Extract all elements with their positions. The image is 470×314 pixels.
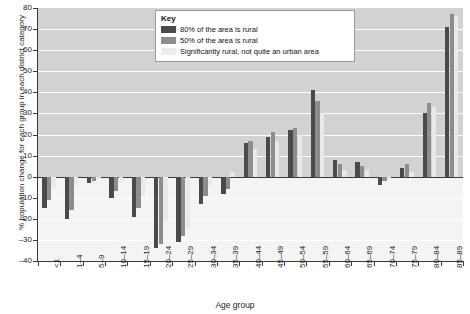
legend-item: Significantly rural, not quite an urban … xyxy=(161,46,349,57)
x-axis-tick-label: 25–29 xyxy=(186,246,195,268)
y-axis-tick xyxy=(33,8,37,9)
x-axis-tick-label: 70–74 xyxy=(388,246,397,268)
bar xyxy=(119,177,123,183)
bar xyxy=(51,177,55,188)
x-axis-tick-label: 20–24 xyxy=(164,246,173,268)
bar-chart-figure: % population change for each group in ea… xyxy=(0,0,470,314)
y-axis-tick xyxy=(33,198,37,199)
y-axis-tick-label: 60 xyxy=(4,45,32,54)
y-axis-tick xyxy=(33,113,37,114)
y-axis-tick-label: 10 xyxy=(4,151,32,160)
y-axis-tick xyxy=(33,156,37,157)
y-axis-tick-label: –40 xyxy=(4,256,32,265)
bar xyxy=(409,172,413,176)
light-gray-swatch xyxy=(161,48,176,55)
bar xyxy=(186,177,190,230)
gridline xyxy=(38,113,463,114)
bar xyxy=(141,177,145,196)
gridline xyxy=(38,219,463,220)
y-axis-tick-label: 0 xyxy=(4,172,32,181)
gridline xyxy=(38,198,463,199)
y-axis-tick-label: 40 xyxy=(4,87,32,96)
bar xyxy=(365,170,369,176)
bar xyxy=(230,172,234,176)
x-axis-tick-label: 60–64 xyxy=(343,246,352,268)
bar xyxy=(387,177,391,179)
x-axis-tick-label: 45–49 xyxy=(276,246,285,268)
legend-item-label: 80% of the area is rural xyxy=(180,25,258,34)
legend-item: 50% of the area is rural xyxy=(161,35,349,46)
x-axis-tick-label: 75–79 xyxy=(410,246,419,268)
bar xyxy=(275,141,279,177)
x-axis-tick-label: 65–69 xyxy=(365,246,374,268)
bar xyxy=(226,177,230,190)
y-axis-tick xyxy=(33,92,37,93)
y-axis-tick xyxy=(33,219,37,220)
legend: Key 80% of the area is rural50% of the a… xyxy=(155,10,355,62)
x-axis-tick-label: 1–4 xyxy=(75,255,84,268)
x-axis-tick-label: 85–89 xyxy=(455,246,464,268)
gridline xyxy=(38,240,463,241)
bar xyxy=(208,177,212,185)
x-axis-tick-label: 30–34 xyxy=(209,246,218,268)
y-axis-spine xyxy=(37,8,38,262)
x-axis-tick-label: <1 xyxy=(52,259,61,268)
y-axis-tick-label: –10 xyxy=(4,193,32,202)
x-axis-tick-label: 35–39 xyxy=(231,246,240,268)
bar xyxy=(96,177,100,179)
y-axis-tick-label: 30 xyxy=(4,108,32,117)
gridline xyxy=(38,135,463,136)
x-axis-tick-label: 5–9 xyxy=(97,255,106,268)
legend-item-label: Significantly rural, not quite an urban … xyxy=(180,47,319,56)
y-axis-tick xyxy=(33,71,37,72)
y-axis-tick xyxy=(33,29,37,30)
gridline xyxy=(38,92,463,93)
mid-gray-swatch xyxy=(161,37,176,44)
dark-gray-swatch xyxy=(161,26,176,33)
y-axis-tick xyxy=(33,240,37,241)
gridline xyxy=(38,71,463,72)
x-axis-tick-label: 15–19 xyxy=(142,246,151,268)
x-axis-tick xyxy=(38,262,39,266)
y-axis-tick xyxy=(33,135,37,136)
y-axis-tick-label: –30 xyxy=(4,235,32,244)
x-axis-tick-label: 55–59 xyxy=(321,246,330,268)
bar xyxy=(454,16,458,176)
y-axis-tick-label: 50 xyxy=(4,66,32,75)
bar xyxy=(298,135,302,177)
y-axis-tick-label: 20 xyxy=(4,130,32,139)
y-axis-tick-label: –20 xyxy=(4,214,32,223)
bar xyxy=(74,177,78,185)
x-axis-tick-label: 50–54 xyxy=(298,246,307,268)
y-axis-tick xyxy=(33,261,37,262)
y-axis-tick xyxy=(33,50,37,51)
legend-items: 80% of the area is rural50% of the area … xyxy=(161,24,349,57)
legend-item: 80% of the area is rural xyxy=(161,24,349,35)
y-axis-tick-label: 70 xyxy=(4,24,32,33)
y-axis-tick xyxy=(33,177,37,178)
bar xyxy=(163,177,167,221)
legend-item-label: 50% of the area is rural xyxy=(180,36,258,45)
x-axis-tick-label: 10–14 xyxy=(119,246,128,268)
x-axis-title: Age group xyxy=(0,300,470,310)
x-axis-tick-label: 40–44 xyxy=(254,246,263,268)
bar xyxy=(342,170,346,176)
legend-title: Key xyxy=(161,14,349,23)
bar xyxy=(253,149,257,176)
x-axis-tick-label: 80–84 xyxy=(432,246,441,268)
y-axis-tick-label: 80 xyxy=(4,3,32,12)
zero-line xyxy=(38,177,463,178)
bar xyxy=(432,107,436,177)
bar xyxy=(320,113,324,176)
